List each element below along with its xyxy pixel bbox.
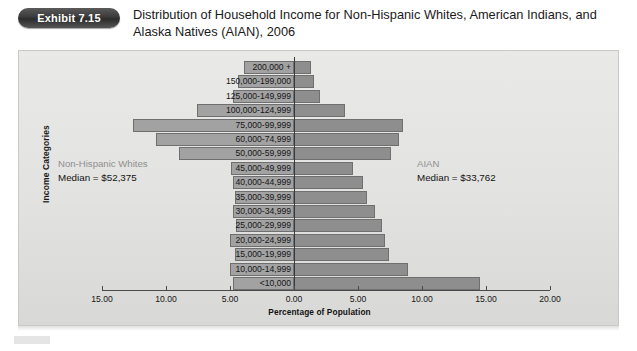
chart-row: 75,000-99,999 xyxy=(19,119,620,132)
chart-row: 60,000-74,999 xyxy=(19,133,620,146)
exhibit-header: Exhibit 7.15 Distribution of Household I… xyxy=(0,0,637,56)
bar-aian xyxy=(294,90,320,103)
zero-axis-line xyxy=(294,57,295,290)
chart-row: 125,000-149,999 xyxy=(19,90,620,103)
chart-row: 35,000-39,999 xyxy=(19,191,620,204)
x-axis-label: Percentage of Population xyxy=(19,307,620,317)
x-axis-tick xyxy=(166,286,167,290)
chart-panel: Income Categories 200,000 +150,000-199,0… xyxy=(18,50,619,326)
exhibit-number-badge: Exhibit 7.15 xyxy=(18,8,120,28)
footer-mark xyxy=(14,336,50,344)
population-pyramid-chart: Income Categories 200,000 +150,000-199,0… xyxy=(19,51,620,327)
annotation-right-median: Median = $33,762 xyxy=(417,171,567,184)
category-label: 50,000-59,999 xyxy=(190,147,294,160)
bar-aian xyxy=(294,147,391,160)
chart-row: 25,000-29,999 xyxy=(19,219,620,232)
annotation-left-group: Non-Hispanic Whites xyxy=(58,158,188,171)
x-axis-tick xyxy=(550,286,551,290)
bar-aian xyxy=(294,61,311,74)
x-axis-tick xyxy=(102,286,103,290)
category-label: 60,000-74,999 xyxy=(190,133,294,146)
category-label: 25,000-29,999 xyxy=(190,219,294,232)
annotation-aian: AIAN Median = $33,762 xyxy=(417,158,567,185)
x-axis-tick-label: 0.00 xyxy=(273,294,315,304)
x-axis-tick-label: 20.00 xyxy=(529,294,571,304)
x-axis-tick-label: 15.00 xyxy=(81,294,123,304)
x-axis-tick-label: 10.00 xyxy=(145,294,187,304)
category-label: 30,000-34,999 xyxy=(190,205,294,218)
panel-shadow xyxy=(18,326,619,331)
bar-aian xyxy=(294,119,403,132)
bar-aian xyxy=(294,263,408,276)
bar-aian xyxy=(294,104,345,117)
chart-row: 20,000-24,999 xyxy=(19,234,620,247)
x-axis-tick xyxy=(358,286,359,290)
bar-aian xyxy=(294,205,375,218)
chart-row: 150,000-199,000 xyxy=(19,75,620,88)
chart-row: 10,000-14,999 xyxy=(19,263,620,276)
category-label: 150,000-199,000 xyxy=(190,75,294,88)
category-label: 125,000-149,999 xyxy=(190,90,294,103)
bar-aian xyxy=(294,219,382,232)
x-axis-tick-label: 5.00 xyxy=(209,294,251,304)
bar-aian xyxy=(294,176,363,189)
chart-row: <10,000 xyxy=(19,277,620,290)
category-label: 100,000-124,999 xyxy=(190,104,294,117)
bar-aian xyxy=(294,277,480,290)
annotation-left-median: Median = $52,375 xyxy=(58,171,188,184)
category-label: <10,000 xyxy=(190,277,294,290)
bar-aian xyxy=(294,248,389,261)
x-axis-tick-label: 10.00 xyxy=(401,294,443,304)
x-axis-tick xyxy=(294,286,295,290)
x-axis-tick-label: 5.00 xyxy=(337,294,379,304)
chart-row: 200,000 + xyxy=(19,61,620,74)
category-label: 75,000-99,999 xyxy=(190,119,294,132)
bars-layer: 200,000 +150,000-199,000125,000-149,9991… xyxy=(19,51,620,327)
category-label: 40,000-44,999 xyxy=(190,176,294,189)
x-axis-line xyxy=(102,290,550,291)
category-label: 35,000-39,999 xyxy=(190,191,294,204)
category-label: 15,000-19,999 xyxy=(190,248,294,261)
category-label: 45,000-49,999 xyxy=(190,162,294,175)
annotation-non-hispanic-whites: Non-Hispanic Whites Median = $52,375 xyxy=(58,158,188,185)
exhibit-page: Exhibit 7.15 Distribution of Household I… xyxy=(0,0,637,351)
category-label: 200,000 + xyxy=(190,61,294,74)
chart-row: 15,000-19,999 xyxy=(19,248,620,261)
chart-row: 30,000-34,999 xyxy=(19,205,620,218)
x-axis-tick-label: 15.00 xyxy=(465,294,507,304)
category-label: 20,000-24,999 xyxy=(190,234,294,247)
bar-aian xyxy=(294,191,367,204)
bar-aian xyxy=(294,133,399,146)
annotation-right-group: AIAN xyxy=(417,158,567,171)
bar-aian xyxy=(294,234,385,247)
bar-aian xyxy=(294,75,314,88)
x-axis-tick xyxy=(422,286,423,290)
x-axis-tick xyxy=(486,286,487,290)
chart-row: 100,000-124,999 xyxy=(19,104,620,117)
category-label: 10,000-14,999 xyxy=(190,263,294,276)
exhibit-title: Distribution of Household Income for Non… xyxy=(133,6,613,40)
bar-aian xyxy=(294,162,353,175)
